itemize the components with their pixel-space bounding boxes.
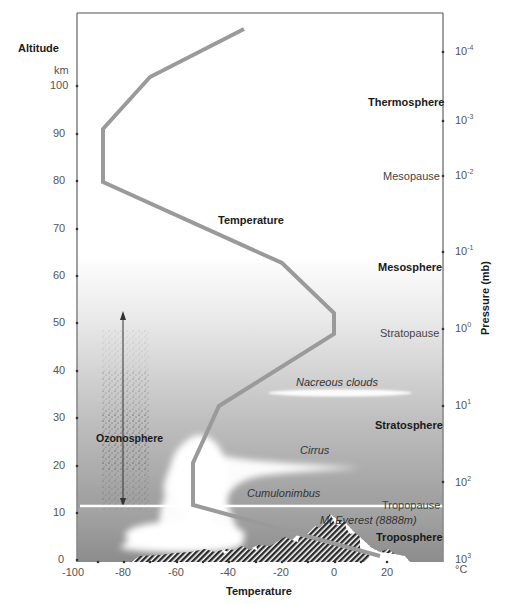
x-tick-minus-60: -60	[168, 566, 184, 578]
nacreous-clouds-label: Nacreous clouds	[296, 376, 378, 388]
ozonosphere-label: Ozonosphere	[96, 432, 163, 444]
altitude-axis-title: Altitude	[18, 42, 59, 54]
pressure-tick-1e-1: 10-1	[455, 244, 473, 257]
y-tick-50: 50	[53, 316, 65, 328]
mesosphere-label: Mesosphere	[378, 261, 442, 273]
x-tick-minus-20: -20	[273, 566, 289, 578]
y-tick-10: 10	[53, 506, 65, 518]
pressure-tick-1e-2: 10-2	[455, 168, 473, 181]
y-tick-60: 60	[53, 269, 65, 281]
stratosphere-label: Stratosphere	[375, 419, 443, 431]
y-tick-100: 100	[50, 79, 68, 91]
nacreous-cloud	[268, 390, 412, 397]
x-tick-0: 0	[331, 566, 337, 578]
pressure-axis-title: Pressure (mb)	[479, 261, 491, 335]
y-tick-80: 80	[53, 174, 65, 186]
pressure-tick-1e-3: 10-3	[455, 113, 473, 126]
mesopause-label: Mesopause	[383, 170, 440, 182]
temperature-curve-label: Temperature	[218, 214, 284, 226]
pressure-tick-1e1: 101	[455, 398, 471, 411]
y-tick-40: 40	[53, 364, 65, 376]
mt-everest-label: Mt Everest (8888m)	[320, 514, 417, 526]
stratopause-label: Stratopause	[380, 327, 439, 339]
pressure-tick-1e0: 100	[455, 321, 471, 334]
cirrus-label: Cirrus	[300, 444, 329, 456]
troposphere-label: Troposphere	[376, 531, 443, 543]
thermosphere-label: Thermosphere	[368, 96, 444, 108]
y-tick-90: 90	[53, 127, 65, 139]
temperature-axis-title: Temperature	[226, 585, 292, 597]
x-tick-minus-80: -80	[115, 566, 131, 578]
altitude-unit: km	[54, 64, 69, 76]
y-tick-70: 70	[53, 222, 65, 234]
ozonosphere-region	[102, 311, 150, 510]
tropopause-label: Tropopause	[382, 499, 440, 511]
atmosphere-diagram	[0, 0, 507, 604]
x-tick-20: 20	[381, 566, 393, 578]
x-tick-minus-100: -100	[62, 566, 84, 578]
x-tick-minus-40: -40	[220, 566, 236, 578]
celsius-unit: °C	[455, 563, 467, 575]
pressure-tick-1e-4: 10-4	[455, 44, 473, 57]
y-tick-0: 0	[58, 553, 64, 565]
y-tick-20: 20	[53, 459, 65, 471]
pressure-tick-1e2: 102	[455, 475, 471, 488]
cumulonimbus-label: Cumulonimbus	[247, 487, 320, 499]
y-tick-30: 30	[53, 411, 65, 423]
